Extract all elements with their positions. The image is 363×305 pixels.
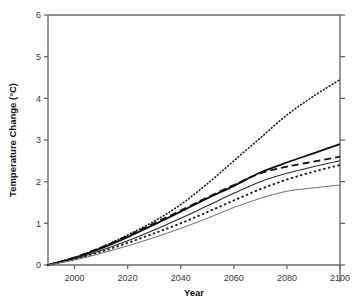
- y-tick-label: 6: [36, 10, 41, 20]
- x-tick-label: 2000: [65, 273, 85, 283]
- x-tick-label: 2040: [171, 273, 191, 283]
- axis-ticks: [44, 15, 345, 269]
- series-line-dashed-scenario: [48, 157, 340, 265]
- y-tick-label: 1: [36, 219, 41, 229]
- series-line-coarse-dotted-scenario: [48, 165, 340, 265]
- x-tick-label: 2080: [277, 273, 297, 283]
- y-tick-label: 2: [36, 177, 41, 187]
- series-line-highest-scenario: [48, 80, 340, 265]
- axis-tick-labels: 0123456200020202040206020802100: [36, 10, 350, 283]
- axis-frame: [48, 15, 340, 282]
- x-tick-label: 2020: [118, 273, 138, 283]
- y-tick-label: 4: [36, 94, 41, 104]
- y-tick-label: 5: [36, 52, 41, 62]
- x-axis-title: Year: [184, 287, 204, 298]
- x-tick-label: 2060: [224, 273, 244, 283]
- y-tick-label: 0: [36, 260, 41, 270]
- temperature-projection-chart: 0123456200020202040206020802100 Temperat…: [0, 0, 363, 305]
- data-series-group: [48, 80, 340, 265]
- y-axis-title: Temperature Change (°C): [7, 83, 18, 197]
- chart-canvas: 0123456200020202040206020802100 Temperat…: [0, 0, 363, 305]
- x-tick-label: 2100: [330, 273, 350, 283]
- y-tick-label: 3: [36, 135, 41, 145]
